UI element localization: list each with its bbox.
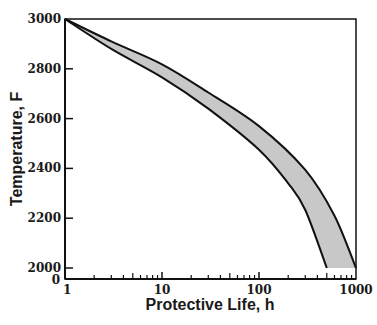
y-axis-title: Temperature, F — [8, 92, 25, 207]
y-tick-label: 2400 — [28, 161, 61, 175]
y-axis-break-label: 0 — [52, 273, 60, 287]
x-ticks: 1101001000 — [63, 272, 373, 297]
y-ticks: 200022002400260028003000 — [28, 12, 73, 275]
x-tick-label: 100 — [246, 283, 271, 297]
y-tick-label: 2600 — [28, 112, 61, 126]
band-fill — [65, 19, 356, 268]
x-tick-label: 1000 — [339, 283, 372, 297]
x-tick-label: 10 — [154, 283, 171, 297]
y-tick-label: 2800 — [28, 62, 61, 76]
y-tick-label: 3000 — [28, 12, 61, 26]
x-tick-label: 1 — [63, 283, 71, 297]
lower-bound-line — [65, 19, 327, 268]
plot-frame — [65, 19, 356, 279]
chart: 200022002400260028003000 1101001000 0 Pr… — [0, 0, 377, 325]
y-tick-label: 2200 — [28, 211, 61, 225]
x-axis-title: Protective Life, h — [146, 296, 275, 313]
upper-bound-line — [65, 19, 356, 268]
